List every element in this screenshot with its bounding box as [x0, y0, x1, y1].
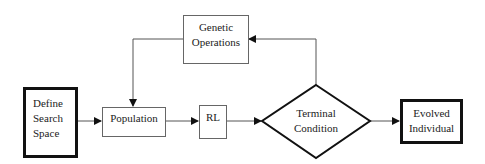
- evolved-individual-label: Evolved Individual: [409, 106, 454, 136]
- edge-genetic-to-population: [133, 39, 183, 106]
- node-evolved-individual: Evolved Individual: [400, 99, 463, 144]
- node-define-search-space: Define Search Space: [23, 87, 78, 158]
- population-label: Population: [110, 111, 158, 126]
- node-genetic-operations: Genetic Operations: [183, 15, 249, 64]
- node-rl: RL: [199, 105, 227, 139]
- rl-label: RL: [206, 110, 220, 125]
- genetic-operations-label: Genetic Operations: [192, 20, 240, 50]
- node-population: Population: [102, 107, 166, 137]
- terminal-condition-label: Terminal Condition: [276, 106, 356, 136]
- edge-terminal-to-genetic: [249, 39, 316, 85]
- define-search-space-label: Define Search Space: [33, 96, 63, 141]
